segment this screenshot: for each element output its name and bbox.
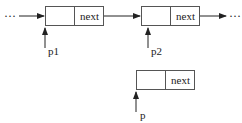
p2-label: p2	[151, 45, 162, 57]
node3: next	[137, 71, 195, 90]
ellipsis-right: ···	[229, 9, 241, 23]
linked-list-diagram: ··· next p1 next ··· p2 next p	[0, 0, 242, 123]
node1-next-label: next	[80, 10, 99, 22]
node2-next-label: next	[176, 10, 195, 22]
p-label: p	[140, 109, 146, 121]
node3-next-label: next	[171, 74, 190, 86]
node2: next	[142, 7, 200, 26]
node1: next	[46, 7, 104, 26]
p1-label: p1	[48, 45, 59, 57]
ellipsis-left: ···	[4, 9, 16, 23]
